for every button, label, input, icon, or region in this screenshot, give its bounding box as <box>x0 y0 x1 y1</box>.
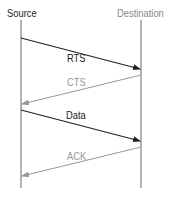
ack-label: ACK <box>67 150 86 162</box>
sequence-diagram <box>0 0 173 200</box>
source-label: Source <box>7 7 37 19</box>
data-label: Data <box>66 109 86 121</box>
cts-label: CTS <box>67 76 86 88</box>
rts-label: RTS <box>67 52 86 64</box>
destination-label: Destination <box>117 7 164 19</box>
